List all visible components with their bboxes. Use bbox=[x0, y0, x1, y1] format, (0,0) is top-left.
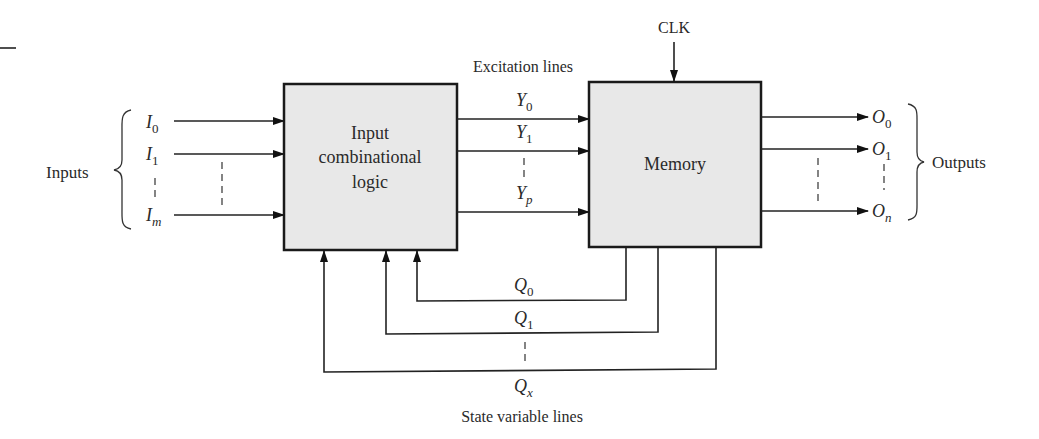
svg-text:O1: O1 bbox=[872, 139, 892, 163]
state-variable-lines-label: State variable lines bbox=[461, 408, 583, 425]
svg-text:Y1: Y1 bbox=[516, 122, 533, 146]
excitation-Yp: Yp bbox=[457, 183, 589, 212]
svg-text:Q0: Q0 bbox=[514, 275, 534, 299]
svg-text:Q1: Q1 bbox=[514, 308, 534, 332]
svg-text:Qx: Qx bbox=[514, 376, 533, 400]
output-O1: O1 bbox=[761, 139, 892, 163]
output-On: On bbox=[761, 201, 892, 225]
svg-text:I1: I1 bbox=[145, 144, 159, 168]
combinational-logic-block: Input combinational logic bbox=[284, 84, 457, 250]
outputs-brace bbox=[908, 104, 924, 220]
clock-label: CLK bbox=[658, 19, 690, 36]
excitation-Y1: Y1 bbox=[457, 122, 589, 151]
outputs-label: Outputs bbox=[932, 153, 986, 172]
memory-label: Memory bbox=[644, 154, 706, 174]
logic-label-line3: logic bbox=[352, 172, 388, 192]
logic-label-line2: combinational bbox=[319, 147, 422, 167]
svg-text:On: On bbox=[872, 201, 892, 225]
input-Im: Im bbox=[145, 205, 284, 229]
svg-text:Im: Im bbox=[145, 205, 161, 229]
svg-text:Y0: Y0 bbox=[516, 90, 533, 114]
output-O0: O0 bbox=[761, 107, 892, 131]
input-I0: I0 bbox=[145, 112, 284, 136]
svg-text:Yp: Yp bbox=[516, 183, 533, 207]
svg-text:O0: O0 bbox=[872, 107, 892, 131]
svg-text:I0: I0 bbox=[145, 112, 159, 136]
memory-block: Memory bbox=[589, 82, 761, 247]
inputs-brace bbox=[114, 110, 131, 229]
sequential-circuit-diagram: Input combinational logic Memory CLK Inp… bbox=[0, 0, 1039, 439]
excitation-lines-label: Excitation lines bbox=[473, 58, 573, 75]
excitation-Y0: Y0 bbox=[457, 90, 589, 119]
inputs-label: Inputs bbox=[46, 163, 89, 182]
state-line-Q0: Q0 bbox=[417, 248, 626, 301]
logic-label-line1: Input bbox=[351, 123, 389, 143]
input-I1: I1 bbox=[145, 144, 284, 168]
